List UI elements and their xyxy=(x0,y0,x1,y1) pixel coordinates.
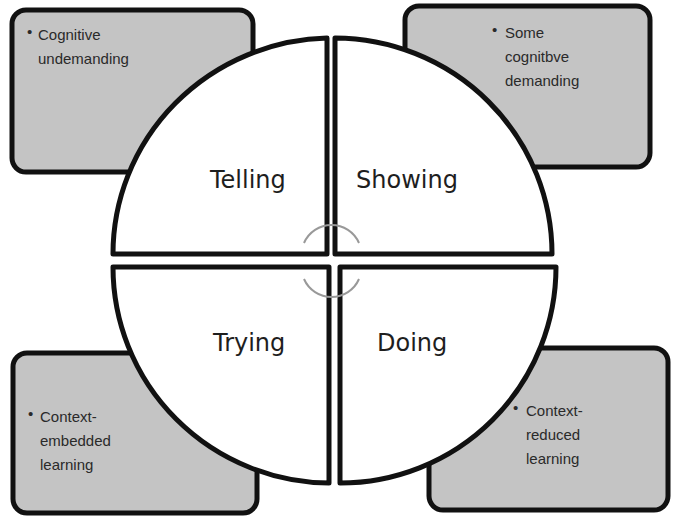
box-text-line: learning xyxy=(526,450,579,467)
box-text-line: demanding xyxy=(505,72,579,89)
box-text-line: cognitbve xyxy=(505,48,569,65)
quadrant-label: Trying xyxy=(212,329,285,357)
box-text-line: embedded xyxy=(40,432,111,449)
quadrant-label: Doing xyxy=(377,329,447,357)
box-text-line: Context- xyxy=(526,402,583,419)
bullet: • xyxy=(513,399,518,416)
box-text-line: Some xyxy=(505,24,544,41)
bullet: • xyxy=(28,405,33,422)
quadrant-label: Showing xyxy=(356,166,458,194)
four-quadrant-cycle-diagram: • Cognitive undemanding • Some cognitbve… xyxy=(0,0,675,524)
quadrant-label: Telling xyxy=(209,166,286,194)
bullet: • xyxy=(492,21,497,38)
box-text-line: undemanding xyxy=(38,50,129,67)
box-text-line: learning xyxy=(40,456,93,473)
box-text-line: reduced xyxy=(526,426,580,443)
box-text-line: Cognitive xyxy=(38,26,101,43)
box-text-line: Context- xyxy=(40,408,97,425)
bullet: • xyxy=(27,23,32,40)
